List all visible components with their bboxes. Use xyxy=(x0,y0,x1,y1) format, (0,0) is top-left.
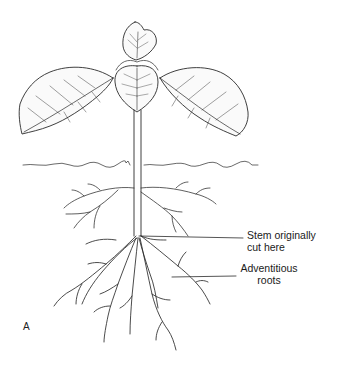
upper-lateral-roots xyxy=(64,182,216,236)
adventitious-leader-line xyxy=(172,276,236,277)
plant-diagram xyxy=(0,0,337,373)
adventitious-label-line2: roots xyxy=(238,274,300,286)
right-leaf xyxy=(160,68,248,136)
stem xyxy=(134,110,141,236)
adventitious-roots-label: Adventitious roots xyxy=(238,262,300,286)
soil-surface xyxy=(23,161,258,168)
center-leaf xyxy=(115,60,158,112)
stem-cut-label-line1: Stem originally xyxy=(247,229,316,241)
stem-cut-label: Stem originally cut here xyxy=(247,229,316,253)
adventitious-roots xyxy=(54,236,210,350)
stem-cut-leader-line xyxy=(139,236,243,238)
top-leaf xyxy=(123,22,157,60)
panel-label: A xyxy=(23,321,30,332)
stem-cut-label-line2: cut here xyxy=(247,241,316,253)
adventitious-label-line1: Adventitious xyxy=(238,262,300,274)
left-leaf xyxy=(19,67,113,134)
